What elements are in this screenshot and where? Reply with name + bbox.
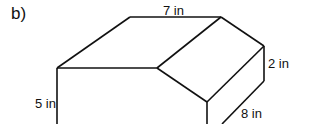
edge-top-left xyxy=(57,17,130,68)
dimension-depth: 8 in xyxy=(241,107,262,120)
dimension-top-length: 7 in xyxy=(163,4,184,17)
edge-right-top xyxy=(207,46,264,102)
dimension-right-height: 2 in xyxy=(268,57,289,70)
edge-ridge-middle xyxy=(157,17,221,68)
edge-front-slope xyxy=(157,68,207,102)
dimension-left-height: 5 in xyxy=(35,97,56,110)
edge-back-slope xyxy=(221,17,264,46)
